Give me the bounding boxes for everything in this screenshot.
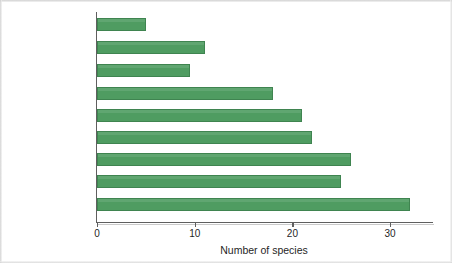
x-tick-label-20: 20 bbox=[287, 228, 298, 240]
bar-subarctic bbox=[97, 41, 205, 54]
bar-riparian bbox=[97, 175, 341, 188]
bar-forested-swamp bbox=[97, 153, 351, 166]
x-tick-30 bbox=[390, 222, 391, 227]
x-tick-10 bbox=[195, 222, 196, 227]
x-axis-line-shadow bbox=[97, 224, 434, 225]
x-tick-20 bbox=[292, 222, 293, 227]
bar-chart-figure: Tidal marsh Subarctic Fresh marsh Shorel… bbox=[0, 0, 452, 263]
x-axis-title: Number of species bbox=[96, 244, 432, 256]
bar-shoreline bbox=[97, 87, 273, 100]
x-tick-label-30: 30 bbox=[385, 228, 396, 240]
x-tick-0 bbox=[97, 222, 98, 227]
x-tick-label-10: 10 bbox=[189, 228, 200, 240]
bar-shrub bbox=[97, 131, 312, 144]
bar-mixed bbox=[97, 198, 410, 211]
bar-fresh-marsh bbox=[97, 64, 190, 77]
plot-area: Tidal marsh Subarctic Fresh marsh Shorel… bbox=[0, 0, 452, 263]
bar-tidal-marsh bbox=[97, 18, 146, 31]
x-tick-label-0: 0 bbox=[94, 228, 100, 240]
bar-bog bbox=[97, 109, 302, 122]
